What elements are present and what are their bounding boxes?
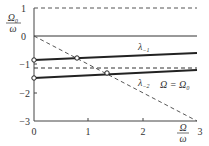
lambda-2-line: [34, 70, 197, 78]
y-tick-label: −1: [19, 59, 30, 70]
y-axis-label-numerator: Ω₀: [8, 12, 19, 23]
lambda-2-annotation: λ−2: [137, 77, 149, 89]
marker: [32, 76, 36, 80]
lambda-1-line: [34, 53, 197, 60]
marker: [75, 56, 79, 60]
marker: [105, 71, 109, 75]
x-tick-label: 1: [86, 126, 91, 137]
y-tick-label: 0: [21, 31, 26, 42]
y-tick-label: −3: [19, 116, 30, 127]
x-axis-label-denominator: ω: [179, 133, 186, 144]
chart: 1 0 −1 −2 −3 0 1 2 3 Ω₀ ω Ω ω λ−1 λ−2 Ω …: [0, 0, 209, 146]
lambda-1-annotation: λ−1: [137, 41, 149, 53]
marker: [32, 58, 36, 62]
y-tick-label: 1: [21, 3, 26, 14]
x-axis-label-numerator: Ω: [179, 122, 186, 133]
x-tick-label: 0: [32, 126, 37, 137]
x-tick-label: 2: [141, 126, 146, 137]
y-axis-label-denominator: ω: [9, 23, 16, 34]
x-tick-label: 3: [198, 126, 203, 137]
omega-equal-annotation: Ω = Ω₀: [160, 79, 190, 90]
y-tick-label: −2: [19, 88, 30, 99]
